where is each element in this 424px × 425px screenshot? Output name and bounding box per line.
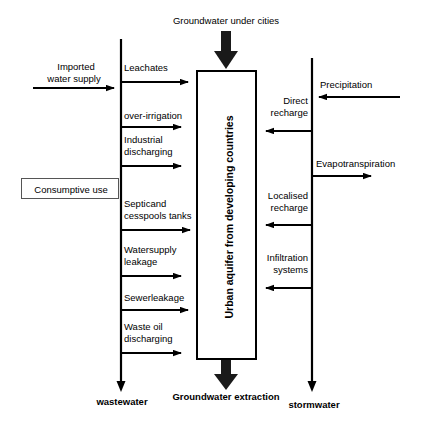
left-flow-label-watersupply-line2: leakage: [124, 256, 157, 268]
stormwater-label: stormwater: [274, 399, 354, 411]
groundwater-extraction-arrow: [214, 360, 238, 390]
groundwater-under-cities-arrow: [214, 31, 238, 69]
imported-water-supply-label-line2: water supply: [28, 73, 120, 85]
water-flow-diagram: Urban aquifer from developing countries …: [0, 0, 424, 425]
right-flow-label-direct-line2: recharge: [238, 107, 308, 119]
left-flow-label-waste-oil-line2: discharging: [124, 333, 173, 345]
imported-water-supply-label-line1: Imported: [34, 61, 118, 73]
left-flow-label-industrial-line2: discharging: [124, 146, 173, 158]
left-flow-label-watersupply-line1: Watersupply: [124, 244, 176, 256]
left-flow-label-industrial-line1: Industrial: [124, 134, 163, 146]
right-flow-label-direct-line1: Direct: [238, 95, 308, 107]
left-flow-label-septic-line1: Septicand: [124, 198, 166, 210]
urban-aquifer-label: Urban aquifer from developing countries: [223, 115, 235, 318]
right-flow-label-localised-line1: Localised: [238, 190, 308, 202]
consumptive-use-label: Consumptive use: [22, 179, 120, 200]
left-flow-label-over-irrigation-line1: over-irrigation: [124, 110, 182, 122]
left-flow-label-septic-line2: cesspools tanks: [124, 210, 192, 222]
precipitation-label: Precipitation: [320, 79, 372, 91]
right-flow-label-localised-line2: recharge: [238, 202, 308, 214]
groundwater-under-cities-label: Groundwater under cities: [151, 15, 301, 27]
left-flow-label-waste-oil-line1: Waste oil: [124, 321, 163, 333]
right-flow-label-infiltration-line2: systems: [238, 264, 308, 276]
left-flow-label-leachates-line1: Leachates: [124, 62, 168, 74]
wastewater-label: wastewater: [82, 396, 162, 408]
left-flow-label-sewer-line1: Sewerleakage: [124, 292, 184, 304]
evapotranspiration-label: Evapotranspiration: [316, 158, 395, 170]
consumptive-use-box: Consumptive use: [21, 178, 119, 199]
right-flow-label-infiltration-line1: Infiltration: [238, 252, 308, 264]
